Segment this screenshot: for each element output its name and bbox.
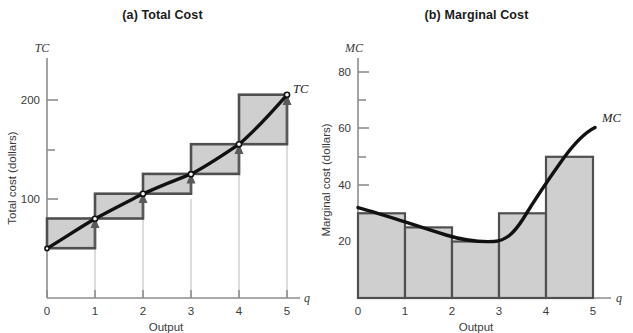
mc-bars (358, 157, 593, 298)
x-tick-label-0: 0 (44, 305, 50, 317)
y-tick-label-40: 40 (338, 179, 351, 191)
marginal-cost-chart: 80 60 40 20 0 1 2 3 4 5 MC q MC Output M… (316, 0, 633, 333)
panel-total-cost: (a) Total Cost (0, 0, 317, 333)
x-axis-ticks (47, 290, 287, 298)
total-cost-chart: 200 100 0 1 2 3 4 5 TC q TC Output Total… (0, 0, 317, 333)
y-tick-label-80: 80 (338, 66, 351, 78)
figure-root: (a) Total Cost (0, 0, 633, 333)
y-axis-symbol: TC (35, 41, 51, 55)
x-tick-label-5: 5 (284, 305, 290, 317)
panel-marginal-cost: (b) Marginal Cost (316, 0, 633, 333)
mc-bar-3 (452, 242, 499, 299)
mc-bar-2 (405, 227, 452, 298)
y-axis-label: Total cost (dollars) (6, 131, 18, 224)
y-tick-label-200: 200 (21, 94, 40, 106)
x-tick-label-1: 1 (402, 305, 408, 317)
y-axis-symbol: MC (344, 41, 364, 55)
x-tick-label-4: 4 (543, 305, 550, 317)
x-tick-label-2: 2 (449, 305, 455, 317)
y-tick-label-60: 60 (338, 122, 351, 134)
mc-curve-label: MC (601, 111, 621, 125)
y-tick-label-20: 20 (338, 235, 351, 247)
x-axis-label: Output (459, 321, 494, 333)
panel-a-title: (a) Total Cost (0, 8, 317, 22)
x-axis-symbol: q (616, 291, 622, 305)
x-tick-label-5: 5 (590, 305, 596, 317)
mc-bar-5 (546, 157, 593, 298)
x-tick-label-4: 4 (236, 305, 243, 317)
x-tick-label-1: 1 (92, 305, 98, 317)
tc-curve-label: TC (293, 82, 309, 96)
y-tick-label-100: 100 (21, 193, 40, 205)
x-tick-label-3: 3 (188, 305, 194, 317)
y-axis-label: Marginal cost (dollars) (320, 123, 332, 236)
mc-bar-1 (358, 213, 405, 298)
x-axis-label: Output (149, 321, 184, 333)
x-axis-symbol: q (304, 291, 310, 305)
x-tick-label-3: 3 (496, 305, 502, 317)
mc-bar-4 (499, 213, 546, 298)
x-tick-label-2: 2 (140, 305, 146, 317)
panel-b-title: (b) Marginal Cost (316, 8, 633, 22)
x-tick-label-0: 0 (355, 305, 361, 317)
